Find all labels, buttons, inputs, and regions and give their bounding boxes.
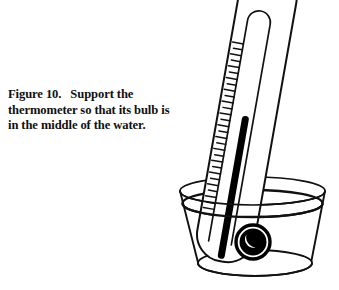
figure-page: Figure 10.Support the thermometer so tha… (0, 0, 339, 290)
thermometer-bulb (236, 225, 270, 259)
bulb-fill (240, 229, 267, 256)
thermometer-beaker-illustration (0, 0, 339, 290)
